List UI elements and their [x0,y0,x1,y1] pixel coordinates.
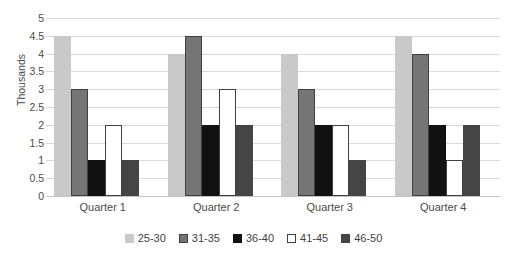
y-axis-tick-label: 1.5 [10,138,44,149]
bar-group [160,18,274,196]
bar [219,89,236,196]
gridline [46,196,500,197]
bar [185,36,202,196]
bar [105,125,122,196]
legend-swatch-icon [341,234,350,243]
legend-label: 36-40 [246,232,274,244]
bar [463,125,480,196]
bar [446,160,463,196]
chart-title: Public School Enrollment [0,0,507,3]
bar [168,54,185,196]
bar [412,54,429,196]
x-axis-category-label: Quarter 2 [160,201,274,213]
y-axis-tick-label: 4 [10,49,44,60]
bar-chart: Public School Enrollment Thousands 54.54… [0,0,507,253]
y-axis-tick-label: 0.5 [10,173,44,184]
legend-swatch-icon [179,234,188,243]
bar [429,125,446,196]
legend-item[interactable]: 31-35 [179,232,220,244]
bar [395,36,412,196]
bar-group [387,18,501,196]
bar [332,125,349,196]
legend-swatch-icon [287,234,296,243]
legend-label: 46-50 [354,232,382,244]
y-axis-title: Thousands [15,25,27,135]
legend-label: 31-35 [192,232,220,244]
bar [349,160,366,196]
y-axis-tick-label: 1 [10,155,44,166]
chart-legend: 25-3031-3536-4041-4546-50 [0,232,507,244]
bar [298,89,315,196]
y-axis-tick-label: 2 [10,120,44,131]
bar [202,125,219,196]
y-axis-tick-label: 2.5 [10,102,44,113]
legend-item[interactable]: 36-40 [233,232,274,244]
bar [71,89,88,196]
y-axis-tick-label: 0 [10,191,44,202]
plot-area [46,18,500,196]
bar [315,125,332,196]
legend-swatch-icon [125,234,134,243]
x-axis-category-label: Quarter 1 [46,201,160,213]
bar-series-container [46,18,500,196]
y-axis-tick-label: 5 [10,13,44,24]
legend-item[interactable]: 41-45 [287,232,328,244]
y-axis-tick-label: 4.5 [10,31,44,42]
bar [88,160,105,196]
bar [236,125,253,196]
legend-item[interactable]: 25-30 [125,232,166,244]
legend-item[interactable]: 46-50 [341,232,382,244]
x-axis-category-label: Quarter 3 [273,201,387,213]
y-axis-tick-label: 3.5 [10,66,44,77]
x-axis-category-label: Quarter 4 [387,201,501,213]
legend-swatch-icon [233,234,242,243]
bar [122,160,139,196]
bar [54,36,71,196]
bar-group [46,18,160,196]
y-axis-tick-label: 3 [10,84,44,95]
legend-label: 25-30 [138,232,166,244]
legend-label: 41-45 [300,232,328,244]
bar [281,54,298,196]
bar-group [273,18,387,196]
